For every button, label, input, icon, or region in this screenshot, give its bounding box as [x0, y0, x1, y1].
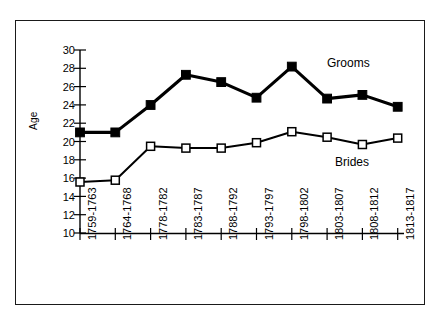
x-tick-label: 1783-1787	[192, 187, 204, 240]
x-axis-tick-labels: 1759-1763 1764-1768 1778-1782 1783-1787 …	[0, 0, 444, 327]
x-tick-label: 1778-1782	[157, 187, 169, 240]
x-tick-label: 1808-1812	[368, 187, 380, 240]
x-tick-label: 1764-1768	[121, 187, 133, 240]
x-tick-label: 1759-1763	[86, 187, 98, 240]
x-tick-label: 1788-1792	[227, 187, 239, 240]
x-tick-label: 1803-1807	[333, 187, 345, 240]
x-tick-label: 1813-1817	[404, 187, 416, 240]
x-tick-label: 1798-1802	[298, 187, 310, 240]
chart-figure: 30 28 26 24 22 20 18 16 14 12 10 Age	[0, 0, 444, 327]
x-tick-label: 1793-1797	[263, 187, 275, 240]
